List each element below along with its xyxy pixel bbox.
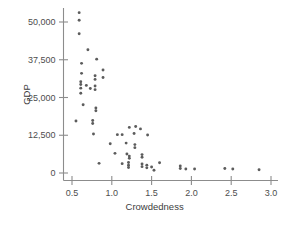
- data-point-marker: [133, 143, 136, 146]
- data-point-marker: [85, 84, 88, 87]
- data-point-marker: [145, 164, 148, 167]
- data-point-marker: [94, 88, 97, 91]
- data-point-marker: [146, 134, 149, 137]
- data-point-marker: [75, 120, 78, 123]
- data-point-marker: [86, 48, 89, 51]
- data-point-marker: [94, 107, 97, 110]
- data-point-marker: [80, 72, 83, 75]
- data-point-marker: [116, 133, 119, 136]
- data-point-marker: [153, 169, 156, 172]
- data-point-marker: [91, 119, 94, 122]
- x-tick-label: 1.5: [145, 188, 158, 198]
- data-point-marker: [158, 161, 161, 164]
- data-point-marker: [95, 58, 98, 61]
- data-point-marker: [114, 152, 117, 155]
- scatter-plot-figure: 012,50025,00037,50050,0000.51.01.52.02.5…: [0, 0, 282, 226]
- y-axis-ticks: 012,50025,00037,50050,000: [28, 17, 68, 178]
- chart-canvas: 012,50025,00037,50050,0000.51.01.52.02.5…: [0, 0, 282, 226]
- data-point-marker: [141, 165, 144, 168]
- data-point-group: [75, 11, 261, 172]
- data-point-marker: [133, 132, 136, 135]
- data-point-marker: [91, 122, 94, 125]
- data-point-marker: [109, 142, 112, 145]
- data-point-marker: [184, 168, 187, 171]
- data-point-marker: [125, 153, 128, 156]
- x-tick-label: 3.0: [265, 188, 278, 198]
- data-point-marker: [139, 127, 142, 130]
- data-point-marker: [98, 162, 101, 165]
- y-axis-title: GDP: [21, 84, 32, 105]
- data-point-marker: [127, 166, 130, 169]
- data-point-marker: [94, 85, 97, 88]
- data-point-marker: [102, 76, 105, 79]
- data-point-marker: [80, 62, 83, 65]
- data-point-marker: [94, 74, 97, 77]
- x-tick-label: 2.5: [225, 188, 238, 198]
- y-tick-label: 12,500: [28, 130, 56, 140]
- data-point-marker: [79, 87, 82, 90]
- data-point-marker: [92, 133, 95, 136]
- data-point-marker: [128, 126, 131, 129]
- data-point-marker: [79, 83, 82, 86]
- x-tick-label: 2.0: [185, 188, 198, 198]
- data-point-marker: [125, 142, 128, 145]
- data-point-marker: [121, 133, 124, 136]
- data-point-marker: [78, 11, 81, 14]
- data-point-marker: [121, 162, 124, 165]
- data-point-marker: [79, 92, 82, 95]
- data-point-marker: [141, 156, 144, 159]
- data-point-marker: [102, 69, 105, 72]
- y-tick-label: 37,500: [28, 55, 56, 65]
- data-point-marker: [141, 162, 144, 165]
- data-point-marker: [79, 80, 82, 83]
- data-point-marker: [134, 125, 137, 128]
- data-point-marker: [82, 103, 85, 106]
- x-axis-ticks: 0.51.01.52.02.53.0: [66, 176, 278, 198]
- data-point-marker: [141, 153, 144, 156]
- data-point-marker: [78, 32, 81, 35]
- y-tick-label: 25,000: [28, 93, 56, 103]
- y-tick-label: 50,000: [28, 17, 56, 27]
- y-tick-label: 0: [50, 168, 55, 178]
- data-point-marker: [78, 19, 81, 22]
- data-point-marker: [133, 146, 136, 149]
- x-axis-title: Crowdedness: [126, 201, 184, 212]
- data-point-marker: [193, 168, 196, 171]
- x-tick-label: 0.5: [66, 188, 79, 198]
- data-point-marker: [89, 87, 92, 90]
- x-tick-label: 1.0: [106, 188, 119, 198]
- data-point-marker: [94, 109, 97, 112]
- data-point-marker: [231, 168, 234, 171]
- data-point-marker: [127, 161, 130, 164]
- data-point-marker: [150, 166, 153, 169]
- data-point-marker: [145, 166, 148, 169]
- data-point-marker: [223, 167, 226, 170]
- data-point-marker: [128, 157, 131, 160]
- data-point-marker: [258, 168, 261, 171]
- data-point-marker: [94, 78, 97, 81]
- data-point-marker: [179, 167, 182, 170]
